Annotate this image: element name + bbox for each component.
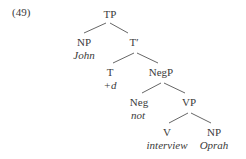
branch-tp-np bbox=[84, 23, 106, 33]
branch-tbar-t bbox=[113, 53, 134, 63]
branch-tp-tbar bbox=[110, 23, 128, 33]
branch-vp-np bbox=[191, 113, 211, 123]
word-john: John bbox=[73, 49, 94, 61]
node-negp: NegP bbox=[149, 66, 173, 78]
node-neg: Neg bbox=[130, 96, 148, 108]
branch-tbar-negp bbox=[137, 53, 158, 63]
node-tbar: T′ bbox=[129, 36, 138, 48]
node-vp: VP bbox=[182, 96, 196, 108]
branch-negp-vp bbox=[164, 83, 185, 93]
example-number: (49) bbox=[12, 6, 30, 18]
node-subject-np: NP bbox=[77, 36, 91, 48]
word-oprah: Oprah bbox=[200, 139, 229, 151]
word-interview: interview bbox=[147, 139, 188, 151]
branch-negp-neg bbox=[142, 83, 161, 93]
node-object-np: NP bbox=[207, 126, 221, 138]
word-past-d: +d bbox=[104, 79, 117, 91]
branch-vp-v bbox=[169, 113, 188, 123]
word-not: not bbox=[131, 109, 145, 121]
node-v: V bbox=[163, 126, 171, 138]
node-t: T bbox=[107, 66, 114, 78]
node-tp: TP bbox=[104, 8, 117, 20]
